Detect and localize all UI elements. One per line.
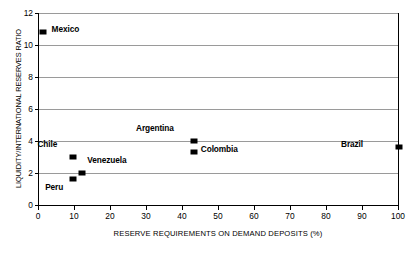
data-point-marker <box>190 139 197 144</box>
gridline <box>39 173 399 174</box>
x-tick-label: 20 <box>105 212 114 220</box>
data-point-marker <box>70 155 77 160</box>
data-point-label: Colombia <box>201 145 238 153</box>
x-tick-mark <box>110 206 111 210</box>
data-point-marker <box>190 150 197 155</box>
x-tick-mark <box>74 206 75 210</box>
x-tick-mark <box>146 206 147 210</box>
x-axis-ticks: 0102030405060708090100 <box>38 206 398 224</box>
y-tick-mark <box>35 77 39 78</box>
data-point-marker <box>396 145 403 150</box>
data-point-marker <box>79 171 86 176</box>
plot-right-border <box>398 13 399 205</box>
data-point-label: Venezuela <box>87 156 126 164</box>
gridline <box>39 109 399 110</box>
data-point-label: Argentina <box>136 124 174 132</box>
y-tick-label: 4 <box>28 137 33 145</box>
scatter-chart: LIQUIDITY/INTERNATIONAL RESERVES RATIO 0… <box>0 0 420 253</box>
x-tick-mark <box>290 206 291 210</box>
y-tick-label: 10 <box>24 41 33 49</box>
y-tick-label: 8 <box>28 73 33 81</box>
y-tick-label: 12 <box>24 9 33 17</box>
data-point-label: Brazil <box>341 140 363 148</box>
y-tick-label: 2 <box>28 169 33 177</box>
x-tick-mark <box>254 206 255 210</box>
y-axis-title: LIQUIDITY/INTERNATIONAL RESERVES RATIO <box>14 9 23 209</box>
x-tick-label: 60 <box>249 212 258 220</box>
x-tick-mark <box>398 206 399 210</box>
data-point-label: Chile <box>37 140 57 148</box>
x-tick-label: 50 <box>213 212 222 220</box>
gridline <box>39 77 399 78</box>
y-tick-mark <box>35 45 39 46</box>
gridline <box>39 45 399 46</box>
x-tick-mark <box>182 206 183 210</box>
x-tick-label: 100 <box>391 212 405 220</box>
y-tick-mark <box>35 109 39 110</box>
x-tick-label: 90 <box>357 212 366 220</box>
x-tick-label: 30 <box>141 212 150 220</box>
x-tick-label: 10 <box>69 212 78 220</box>
x-tick-mark <box>362 206 363 210</box>
x-tick-mark <box>326 206 327 210</box>
data-point-marker <box>70 177 77 182</box>
x-tick-label: 0 <box>36 212 41 220</box>
y-tick-label: 0 <box>28 201 33 209</box>
plot-area: 024681012 MexicoArgentinaBrazilColombiaC… <box>38 13 399 206</box>
x-tick-label: 70 <box>285 212 294 220</box>
gridline <box>39 13 399 14</box>
data-point-label: Peru <box>45 183 63 191</box>
y-tick-mark <box>35 13 39 14</box>
y-tick-mark <box>35 173 39 174</box>
x-tick-label: 40 <box>177 212 186 220</box>
x-tick-mark <box>218 206 219 210</box>
data-point-label: Mexico <box>52 25 80 33</box>
x-tick-mark <box>38 206 39 210</box>
data-point-marker <box>39 30 46 35</box>
y-tick-label: 6 <box>28 105 33 113</box>
x-axis-title: RESERVE REQUIREMENTS ON DEMAND DEPOSITS … <box>38 229 398 238</box>
x-tick-label: 80 <box>321 212 330 220</box>
